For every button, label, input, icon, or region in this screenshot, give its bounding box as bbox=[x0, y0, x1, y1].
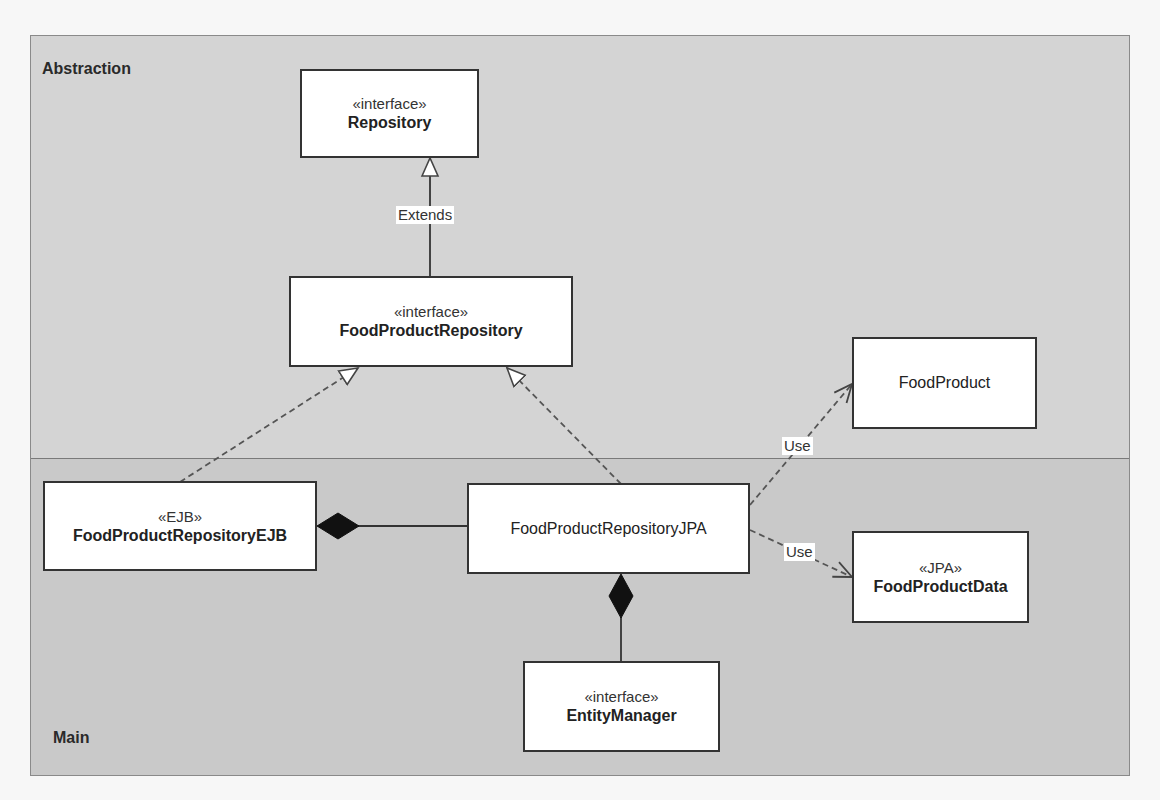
main-package-label: Main bbox=[53, 729, 89, 747]
class-name: FoodProduct bbox=[899, 373, 991, 393]
stereotype-label: «EJB» bbox=[158, 507, 202, 526]
class-name: Repository bbox=[348, 113, 432, 133]
stereotype-label: «JPA» bbox=[919, 558, 962, 577]
stereotype-label: «interface» bbox=[584, 687, 658, 706]
class-food-product-data[interactable]: «JPA» FoodProductData bbox=[852, 531, 1029, 623]
class-name: EntityManager bbox=[566, 706, 676, 726]
class-name: FoodProductRepository bbox=[339, 321, 522, 341]
class-name: FoodProductRepositoryJPA bbox=[510, 519, 706, 539]
class-food-product-repository-jpa[interactable]: FoodProductRepositoryJPA bbox=[467, 483, 750, 574]
class-food-product-repository-ejb[interactable]: «EJB» FoodProductRepositoryEJB bbox=[43, 481, 317, 571]
stereotype-label: «interface» bbox=[394, 302, 468, 321]
class-entity-manager[interactable]: «interface» EntityManager bbox=[523, 661, 720, 752]
class-repository[interactable]: «interface» Repository bbox=[300, 69, 479, 158]
use-food-product-data-label: Use bbox=[784, 543, 815, 561]
abstraction-package-label: Abstraction bbox=[42, 60, 131, 78]
class-name: FoodProductData bbox=[873, 577, 1007, 597]
class-name: FoodProductRepositoryEJB bbox=[73, 526, 287, 546]
class-food-product-repository[interactable]: «interface» FoodProductRepository bbox=[289, 276, 573, 367]
use-food-product-label: Use bbox=[782, 437, 813, 455]
stereotype-label: «interface» bbox=[352, 94, 426, 113]
extends-label: Extends bbox=[396, 206, 454, 224]
class-food-product[interactable]: FoodProduct bbox=[852, 337, 1037, 429]
